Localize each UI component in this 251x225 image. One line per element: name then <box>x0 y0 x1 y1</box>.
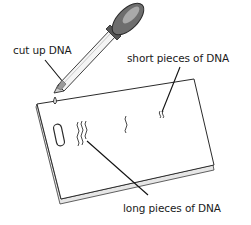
label-long-pieces: long pieces of DNA <box>123 202 221 214</box>
diagram-canvas: cut up DNA short pieces of DNA long piec… <box>0 0 251 225</box>
label-cut-up-dna: cut up DNA <box>13 44 72 56</box>
label-short-pieces: short pieces of DNA <box>127 52 229 64</box>
drop-icon <box>54 97 57 104</box>
